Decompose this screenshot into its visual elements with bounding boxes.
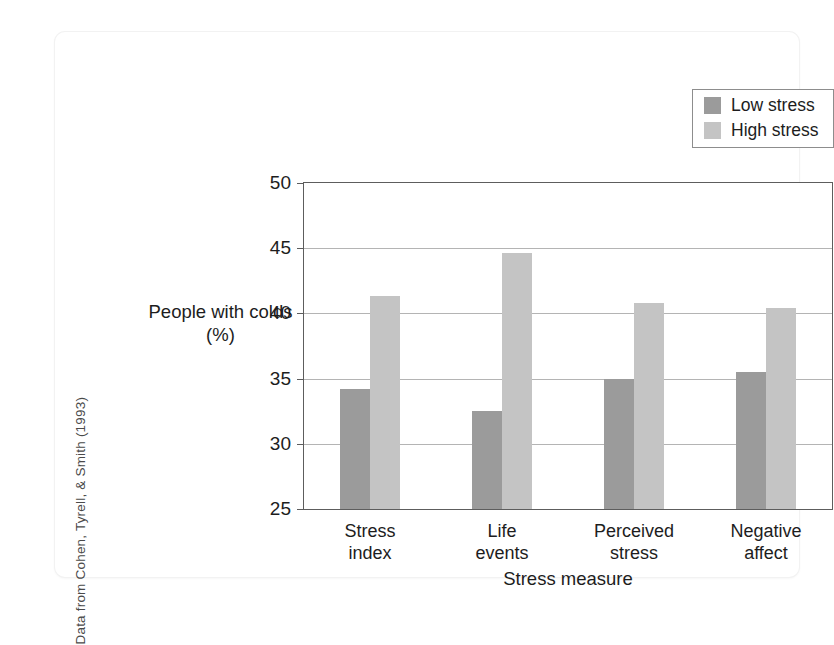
bar-low-stress — [472, 411, 502, 509]
y-tick-mark — [297, 379, 304, 380]
bar-group: Lifeevents — [436, 183, 568, 509]
y-tick-label: 40 — [270, 302, 291, 324]
x-tick-label: Perceivedstress — [594, 521, 674, 565]
y-tick-mark — [297, 248, 304, 249]
x-tick-label-line1: Perceived — [594, 521, 674, 543]
y-tick-label: 45 — [270, 237, 291, 259]
legend-label-low-stress: Low stress — [731, 97, 815, 115]
x-tick-label: Stressindex — [344, 521, 395, 565]
y-tick-mark — [297, 444, 304, 445]
x-tick-label-line1: Life — [475, 521, 528, 543]
legend-item-high-stress: High stress — [704, 122, 819, 140]
y-tick-label: 50 — [270, 172, 291, 194]
bar-group: Perceivedstress — [568, 183, 700, 509]
bar-group: Negativeaffect — [700, 183, 832, 509]
x-tick-label-line2: affect — [730, 543, 801, 565]
y-tick-label: 30 — [270, 433, 291, 455]
source-credit: Data from Cohen, Tyrell, & Smith (1993) — [73, 165, 88, 645]
y-tick-label: 25 — [270, 498, 291, 520]
x-tick-label-line1: Negative — [730, 521, 801, 543]
legend-swatch-high-stress — [704, 122, 721, 139]
legend-swatch-low-stress — [704, 97, 721, 114]
x-tick-label: Lifeevents — [475, 521, 528, 565]
plot-area: 504540353025 StressindexLifeeventsPercei… — [303, 182, 833, 510]
legend-label-high-stress: High stress — [731, 122, 819, 140]
y-tick-mark — [297, 313, 304, 314]
bar-low-stress — [340, 389, 370, 509]
bar-groups: StressindexLifeeventsPerceivedstressNega… — [304, 183, 832, 509]
x-tick-label-line1: Stress — [344, 521, 395, 543]
x-tick-label-line2: index — [344, 543, 395, 565]
bar-high-stress — [370, 296, 400, 509]
x-tick-label-line2: stress — [594, 543, 674, 565]
y-tick-label: 35 — [270, 368, 291, 390]
x-axis-title: Stress measure — [303, 568, 833, 590]
x-tick-label-line2: events — [475, 543, 528, 565]
bar-high-stress — [766, 308, 796, 509]
legend-item-low-stress: Low stress — [704, 97, 819, 115]
chart-legend: Low stress High stress — [692, 89, 834, 148]
bar-group: Stressindex — [304, 183, 436, 509]
figure-card: Data from Cohen, Tyrell, & Smith (1993) … — [55, 32, 799, 577]
x-tick-label: Negativeaffect — [730, 521, 801, 565]
bar-low-stress — [736, 372, 766, 509]
y-tick-mark — [297, 183, 304, 184]
y-tick-mark — [297, 509, 304, 510]
bar-high-stress — [634, 303, 664, 509]
bar-low-stress — [604, 379, 634, 509]
bar-high-stress — [502, 253, 532, 509]
